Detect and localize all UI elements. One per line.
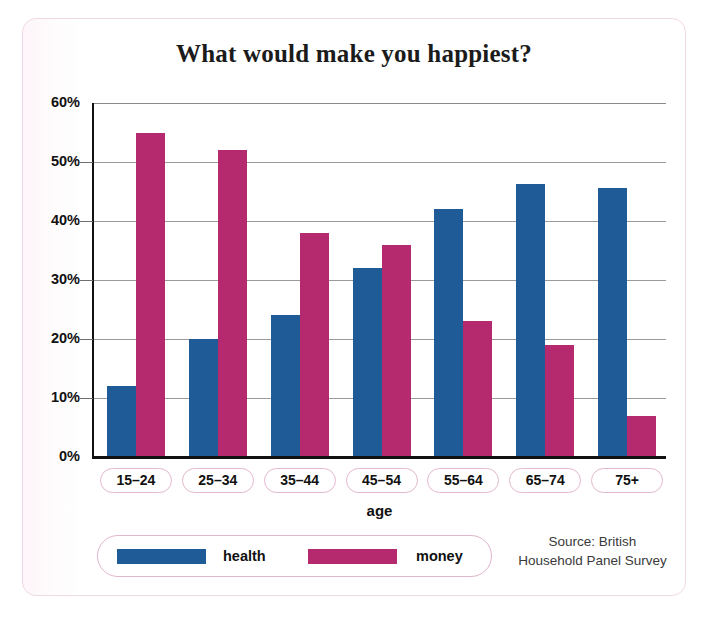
legend-swatch-money xyxy=(308,549,397,564)
x-axis-line xyxy=(92,456,666,459)
category-pill-45–54[interactable]: 45–54 xyxy=(346,468,418,493)
y-axis-line xyxy=(92,103,94,459)
bar-health-65–74[interactable] xyxy=(516,184,545,457)
legend-swatch-health xyxy=(117,549,206,564)
bar-money-75+[interactable] xyxy=(627,416,656,457)
bar-group-15–24 xyxy=(107,103,165,457)
category-pill-35–44[interactable]: 35–44 xyxy=(264,468,336,493)
bar-group-55–64 xyxy=(434,103,492,457)
source-line-2: Household Panel Survey xyxy=(505,551,680,570)
x-axis-title: age xyxy=(93,502,666,519)
x-axis-category-labels: 15–2425–3435–4445–5455–6465–7475+ xyxy=(93,468,666,494)
bar-group-65–74 xyxy=(516,103,574,457)
source-line-1: Source: British xyxy=(505,532,680,551)
bar-health-25–34[interactable] xyxy=(189,339,218,457)
bar-money-65–74[interactable] xyxy=(545,345,574,457)
bar-health-45–54[interactable] xyxy=(353,268,382,457)
y-tick-label-50%: 50% xyxy=(16,153,80,169)
category-pill-75+[interactable]: 75+ xyxy=(591,468,663,493)
category-pill-55–64[interactable]: 55–64 xyxy=(427,468,499,493)
bar-money-35–44[interactable] xyxy=(300,233,329,457)
legend-label-money: money xyxy=(416,548,463,564)
source-note: Source: British Household Panel Survey xyxy=(505,532,680,570)
y-tick-50 xyxy=(80,162,93,163)
bar-group-35–44 xyxy=(271,103,329,457)
category-pill-15–24[interactable]: 15–24 xyxy=(100,468,172,493)
legend-label-health: health xyxy=(223,548,266,564)
bar-money-25–34[interactable] xyxy=(218,150,247,457)
bar-health-35–44[interactable] xyxy=(271,315,300,457)
chart-title: What would make you happiest? xyxy=(0,40,708,68)
category-pill-65–74[interactable]: 65–74 xyxy=(509,468,581,493)
bar-group-75+ xyxy=(598,103,656,457)
y-tick-label-40%: 40% xyxy=(16,212,80,228)
bar-money-45–54[interactable] xyxy=(382,245,411,457)
bar-group-25–34 xyxy=(189,103,247,457)
bar-health-15–24[interactable] xyxy=(107,386,136,457)
y-tick-20 xyxy=(80,339,93,340)
chart-legend: healthmoney xyxy=(97,535,492,577)
bar-money-55–64[interactable] xyxy=(463,321,492,457)
y-tick-30 xyxy=(80,280,93,281)
bar-health-75+[interactable] xyxy=(598,188,627,457)
y-tick-label-0%: 0% xyxy=(16,448,80,464)
bar-money-15–24[interactable] xyxy=(136,133,165,458)
plot-area xyxy=(93,103,666,457)
y-tick-40 xyxy=(80,221,93,222)
chart-figure: What would make you happiest? 0%10%20%30… xyxy=(0,0,708,623)
y-axis-labels: 0%10%20%30%40%50%60% xyxy=(10,0,80,623)
y-tick-label-30%: 30% xyxy=(16,271,80,287)
bar-health-55–64[interactable] xyxy=(434,209,463,457)
category-pill-25–34[interactable]: 25–34 xyxy=(182,468,254,493)
y-tick-label-10%: 10% xyxy=(16,389,80,405)
bar-group-45–54 xyxy=(353,103,411,457)
y-tick-label-20%: 20% xyxy=(16,330,80,346)
y-tick-10 xyxy=(80,398,93,399)
y-tick-label-60%: 60% xyxy=(16,94,80,110)
